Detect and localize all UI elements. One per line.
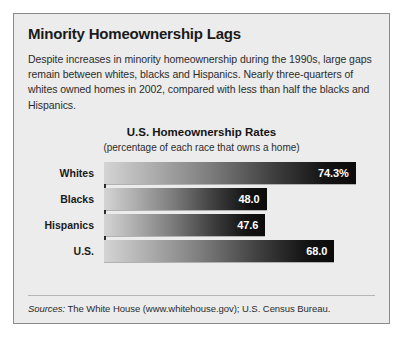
bar: 74.3%	[104, 162, 356, 184]
chart-title: U.S. Homeownership Rates	[28, 126, 375, 140]
bar: 48.0	[104, 188, 267, 210]
bar-track: 47.6	[104, 214, 375, 236]
bar-value-label: 74.3%	[318, 167, 356, 179]
summary-paragraph: Despite increases in minority homeowners…	[28, 52, 375, 114]
infographic-panel: Minority Homeownership Lags Despite incr…	[13, 13, 390, 324]
bar-track: 74.3%	[104, 162, 375, 184]
bar: 68.0	[104, 240, 334, 262]
bar-value-label: 68.0	[306, 245, 334, 257]
bar-track: 48.0	[104, 188, 375, 210]
category-label: Whites	[30, 167, 100, 179]
source-note-lead: Sources:	[28, 303, 65, 314]
chart-row: Blacks 48.0	[30, 188, 375, 210]
bar-value-label: 48.0	[239, 193, 267, 205]
chart-subtitle: (percentage of each race that owns a hom…	[28, 142, 375, 154]
bar-track: 68.0	[104, 240, 375, 262]
bar: 47.6	[104, 214, 265, 236]
source-note: Sources: The White House (www.whitehouse…	[28, 303, 375, 315]
bar-chart: Whites 74.3% Blacks 48.0 Hispanics	[30, 162, 375, 262]
category-label: U.S.	[30, 245, 100, 257]
bar-value-label: 47.6	[237, 219, 265, 231]
chart-row: U.S. 68.0	[30, 240, 375, 262]
source-note-text: The White House (www.whitehouse.gov); U.…	[65, 303, 330, 314]
category-label: Blacks	[30, 193, 100, 205]
chart-row: Hispanics 47.6	[30, 214, 375, 236]
chart-row: Whites 74.3%	[30, 162, 375, 184]
category-label: Hispanics	[30, 219, 100, 231]
page-title: Minority Homeownership Lags	[28, 26, 375, 43]
infographic-content: Minority Homeownership Lags Despite incr…	[14, 14, 389, 323]
footer-divider	[28, 295, 375, 296]
